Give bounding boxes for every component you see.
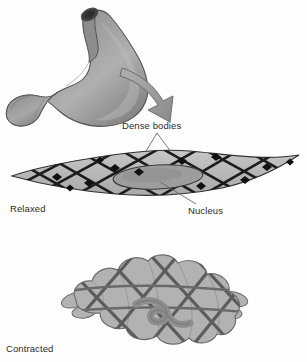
smooth-muscle-figure — [0, 0, 307, 362]
stomach-illustration — [6, 5, 147, 126]
label-dense-bodies: Dense bodies — [122, 120, 181, 131]
relaxed-smooth-muscle-cell — [0, 144, 307, 208]
pylorus-duodenum — [6, 92, 58, 126]
label-relaxed: Relaxed — [10, 203, 46, 214]
label-nucleus: Nucleus — [188, 205, 223, 216]
contracted-smooth-muscle-cell — [60, 246, 262, 356]
label-contracted: Contracted — [6, 343, 53, 354]
